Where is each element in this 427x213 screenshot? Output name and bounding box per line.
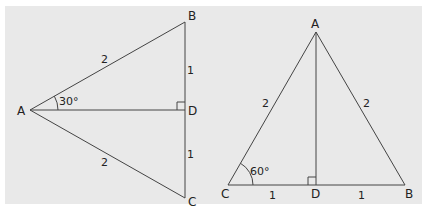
left-labels: A B C D 2 2 1 1 30° (17, 9, 197, 209)
side-label-DB: 1 (358, 189, 365, 202)
vertex-label-B: B (405, 187, 413, 201)
side-AC (30, 110, 185, 198)
right-angle-marker (177, 102, 185, 110)
vertex-label-D: D (311, 187, 320, 201)
vertex-label-B: B (188, 9, 196, 23)
left-triangle (30, 22, 185, 198)
side-label-AC: 2 (101, 156, 108, 169)
side-AC (228, 32, 316, 185)
side-label-CD: 1 (269, 189, 276, 202)
side-label-AB: 2 (363, 97, 370, 110)
angle-label-C: 60° (250, 165, 270, 178)
side-AB (30, 22, 185, 110)
side-label-AC: 2 (262, 97, 269, 110)
right-triangle (228, 32, 405, 185)
side-label-AB: 2 (101, 53, 108, 66)
right-labels: A B C D 2 2 1 1 60° (221, 17, 413, 202)
angle-arc-A (54, 96, 58, 110)
side-label-BD: 1 (187, 64, 194, 77)
vertex-label-C: C (221, 187, 229, 201)
angle-label-A: 30° (59, 95, 79, 108)
right-angle-marker (308, 177, 316, 185)
vertex-label-A: A (311, 17, 320, 31)
vertex-label-D: D (188, 104, 197, 118)
side-AB (316, 32, 405, 185)
side-label-DC: 1 (187, 148, 194, 161)
triangles-diagram: A B C D 2 2 1 1 30° A B C D 2 2 1 1 60° (0, 0, 427, 213)
vertex-label-C: C (188, 195, 196, 209)
vertex-label-A: A (17, 104, 26, 118)
